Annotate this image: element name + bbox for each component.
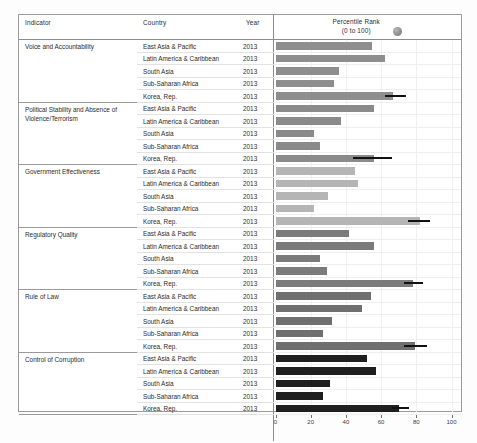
year-label: 2013: [240, 265, 273, 278]
gridline: [346, 140, 347, 152]
bar-cell: [273, 365, 461, 378]
bar-cell: [273, 315, 461, 328]
bar-cell: [273, 102, 461, 115]
chart-title-line2: (0 to 100): [342, 27, 371, 34]
year-label: 2013: [240, 152, 273, 165]
value-bar: [276, 217, 420, 225]
gridline: [452, 203, 453, 215]
column-header-year: Year: [240, 15, 273, 40]
country-label: Latin America & Caribbean: [137, 52, 240, 65]
bar-cell: [273, 265, 461, 278]
table-row: Political Stability and Absence of Viole…: [19, 102, 461, 115]
value-bar: [276, 242, 375, 250]
bar-plot-area: [274, 403, 462, 415]
year-label: 2013: [240, 52, 273, 65]
gridline: [452, 90, 453, 102]
year-label: 2013: [240, 215, 273, 228]
bar-cell: [273, 215, 461, 228]
bar-cell: [273, 327, 461, 340]
bar-cell: [273, 390, 461, 403]
gridline: [381, 165, 382, 177]
year-label: 2013: [240, 140, 273, 153]
bar-cell: [273, 340, 461, 353]
bar-cell: [273, 40, 461, 53]
bar-cell: [273, 277, 461, 290]
gridline: [416, 90, 417, 102]
gridline: [416, 240, 417, 252]
country-label: Latin America & Caribbean: [137, 115, 240, 128]
axis-tick-label: 80: [413, 419, 420, 425]
year-label: 2013: [240, 77, 273, 90]
country-label: Korea, Rep.: [137, 340, 240, 353]
gridline: [381, 103, 382, 115]
country-label: Korea, Rep.: [137, 90, 240, 103]
year-label: 2013: [240, 177, 273, 190]
gridline: [416, 190, 417, 202]
bar-plot-area: [274, 140, 462, 152]
bar-cell: [273, 202, 461, 215]
value-bar: [276, 205, 315, 213]
gridline: [346, 265, 347, 277]
country-label: Latin America & Caribbean: [137, 365, 240, 378]
error-bar-marker: [404, 282, 423, 284]
value-bar: [276, 267, 327, 275]
gridline: [452, 315, 453, 327]
gridline: [416, 103, 417, 115]
axis-spacer-cell: [19, 415, 137, 442]
bar-plot-area: [274, 228, 462, 240]
year-label: 2013: [240, 240, 273, 253]
gridline: [381, 178, 382, 190]
bar-plot-area: [274, 315, 462, 327]
error-bar-marker: [404, 345, 427, 347]
bar-cell: [273, 140, 461, 153]
gridline: [416, 53, 417, 65]
gridline: [452, 278, 453, 290]
country-label: Korea, Rep.: [137, 215, 240, 228]
table-row: Control of CorruptionEast Asia & Pacific…: [19, 352, 461, 365]
chart-title-line1: Percentile Rank: [333, 18, 380, 25]
country-label: East Asia & Pacific: [137, 165, 240, 178]
value-bar: [276, 292, 371, 300]
value-bar: [276, 317, 332, 325]
country-label: Sub-Saharan Africa: [137, 202, 240, 215]
value-bar: [276, 55, 385, 63]
year-label: 2013: [240, 127, 273, 140]
gridline: [416, 378, 417, 390]
bar-plot-area: [274, 265, 462, 277]
country-label: South Asia: [137, 252, 240, 265]
indicator-label: Government Effectiveness: [19, 165, 137, 228]
country-label: Latin America & Caribbean: [137, 302, 240, 315]
bar-cell: [273, 77, 461, 90]
axis-tick-label: 100: [446, 419, 456, 425]
value-bar: [276, 392, 324, 400]
bar-plot-area: [274, 240, 462, 252]
error-bar-marker: [392, 407, 410, 409]
gridline: [416, 353, 417, 365]
value-bar: [276, 105, 375, 113]
bar-plot-area: [274, 153, 462, 165]
table-body: Voice and AccountabilityEast Asia & Paci…: [19, 40, 461, 442]
indicator-label: Regulatory Quality: [19, 227, 137, 290]
gridline: [452, 353, 453, 365]
gridline: [381, 303, 382, 315]
gridline: [452, 365, 453, 377]
value-bar: [276, 305, 362, 313]
axis-tick-label: 0: [274, 419, 277, 425]
bar-plot-area: [274, 340, 462, 352]
report-frame: Indicator Country Year Percentile Rank (…: [18, 14, 462, 412]
year-label: 2013: [240, 352, 273, 365]
bar-plot-area: [274, 165, 462, 177]
bar-cell: [273, 65, 461, 78]
bar-cell: [273, 165, 461, 178]
error-bar-marker: [385, 95, 406, 97]
bar-plot-area: [274, 390, 462, 402]
gridline: [416, 153, 417, 165]
column-header-country: Country: [137, 15, 240, 40]
year-label: 2013: [240, 390, 273, 403]
value-bar: [276, 230, 350, 238]
year-label: 2013: [240, 202, 273, 215]
gridline: [452, 265, 453, 277]
bar-plot-area: [274, 190, 462, 202]
axis-tick: [452, 415, 453, 418]
bar-cell: [273, 402, 461, 415]
